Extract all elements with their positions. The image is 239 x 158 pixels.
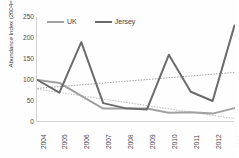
abundance-index-line-chart: Abundance Index (2004=100) 2502001501005… [0,0,238,158]
y-tick-50: 50 [12,98,34,104]
y-tick-0: 0 [12,119,34,125]
y-tick-100: 100 [12,77,34,83]
x-tick-2008: 2008 [127,134,134,149]
y-tick-200: 200 [12,35,34,41]
y-tick-150: 150 [12,56,34,62]
x-tick-2010: 2010 [171,134,178,149]
x-tick-2011: 2011 [193,135,200,149]
x-axis-tick-labels: 2004200520062007200820092010201120122013 [36,122,234,158]
x-tick-2005: 2005 [61,134,68,149]
x-tick-2004: 2004 [40,134,47,149]
x-tick-2006: 2006 [83,134,90,149]
y-axis-tick-labels: 250200150100500 [12,0,34,158]
x-tick-2013: 2013 [237,134,239,149]
y-tick-250: 250 [12,14,34,20]
series-lines [37,17,235,122]
x-tick-2007: 2007 [105,134,112,149]
line-series-jersey [38,25,235,109]
x-tick-2012: 2012 [215,134,222,149]
x-tick-2009: 2009 [149,134,156,149]
plot-area [36,17,234,122]
trendline-uk [38,89,235,118]
